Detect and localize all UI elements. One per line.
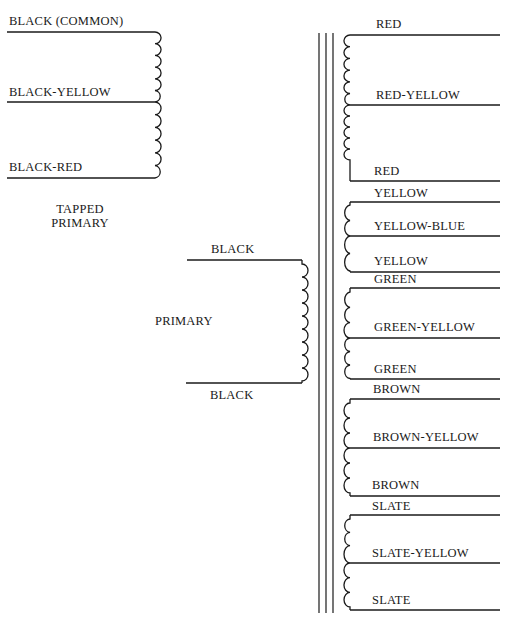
secondary-red [344,35,500,181]
label-green-yellow: GREEN-YELLOW [374,320,475,334]
label-red-yellow: RED-YELLOW [376,88,460,102]
label-brown-top: BROWN [373,382,421,396]
label-primary-black-bottom: BLACK [210,388,253,402]
transformer-core [319,33,333,613]
secondary-slate [344,515,500,610]
label-green-bottom: GREEN [374,362,417,376]
tapped-primary-coil-icon [155,32,161,178]
tapped-primary-caption-line2: PRIMARY [40,216,120,230]
secondary-green-coil-icon [344,288,350,379]
label-red-top: RED [376,17,402,31]
label-yellow-top: YELLOW [374,186,428,200]
label-brown-yellow: BROWN-YELLOW [373,430,479,444]
label-brown-bottom: BROWN [372,478,420,492]
label-slate-top: SLATE [372,499,411,513]
tapped-primary-caption: TAPPED PRIMARY [40,202,120,230]
secondary-red-coil-icon [344,35,350,181]
label-red-bottom: RED [374,164,400,178]
label-yellow-blue: YELLOW-BLUE [374,219,465,233]
primary-caption: PRIMARY [155,314,213,328]
tapped-primary-winding [7,32,161,178]
label-primary-black-top: BLACK [211,242,254,256]
label-slate-bottom: SLATE [372,593,411,607]
label-green-top: GREEN [374,272,417,286]
secondary-slate-coil-icon [344,515,350,610]
label-yellow-bottom: YELLOW [374,254,428,268]
secondary-brown-coil-icon [344,399,350,496]
label-black-common: BLACK (COMMON) [9,14,123,28]
label-black-red: BLACK-RED [9,160,82,174]
label-slate-yellow: SLATE-YELLOW [372,546,469,560]
secondary-yellow-coil-icon [345,202,350,272]
tapped-primary-caption-line1: TAPPED [40,202,120,216]
secondary-brown [344,399,500,496]
primary-coil-icon [302,260,308,383]
label-black-yellow: BLACK-YELLOW [9,85,111,99]
